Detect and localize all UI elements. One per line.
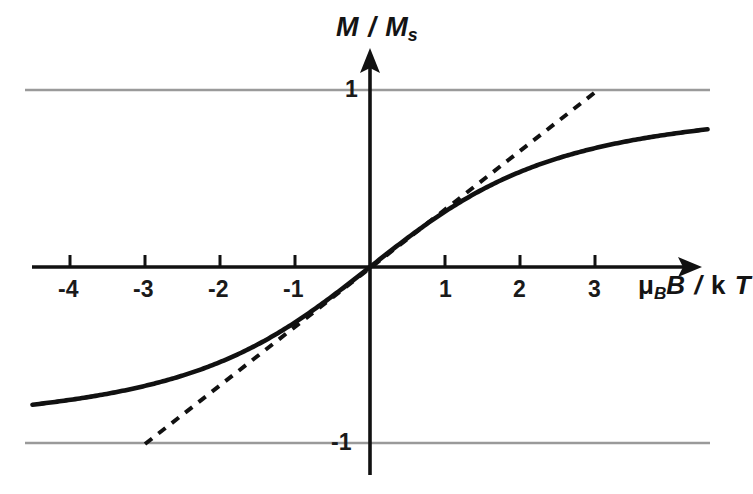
- y-tick-label-1: 1: [345, 78, 358, 101]
- y-axis-title: M / Ms: [336, 14, 418, 45]
- x-tick-label-2: 2: [513, 278, 526, 301]
- y-axis-title-denominator: M: [385, 12, 408, 42]
- y-axis-title-slash: /: [368, 12, 376, 42]
- y-axis-title-numerator: M: [336, 12, 359, 42]
- x-tick-label--3: -3: [133, 278, 153, 301]
- x-tick-label--2: -2: [208, 278, 228, 301]
- x-tick-label-1: 1: [439, 278, 452, 301]
- y-tick-label--1: -1: [331, 431, 351, 454]
- x-axis-title-mu: μ: [638, 270, 654, 300]
- x-axis-title-slash: /: [694, 270, 701, 300]
- x-tick-label-3: 3: [588, 278, 601, 301]
- chart-canvas: [0, 0, 753, 494]
- x-axis-title-temperature: T: [735, 270, 751, 300]
- x-tick-label--4: -4: [58, 278, 78, 301]
- x-axis-title-mu-subscript: B: [654, 283, 666, 303]
- x-axis-title-boltzmann: k: [711, 270, 725, 300]
- langevin-magnetization-chart: -4 -3 -2 -1 1 2 3 1 -1 M / Ms μBB / k T: [0, 0, 753, 494]
- x-axis-title: μBB / k T: [638, 272, 751, 302]
- x-tick-label--1: -1: [283, 278, 303, 301]
- x-axis-title-field: B: [666, 270, 685, 300]
- y-axis-title-subscript: s: [408, 25, 418, 45]
